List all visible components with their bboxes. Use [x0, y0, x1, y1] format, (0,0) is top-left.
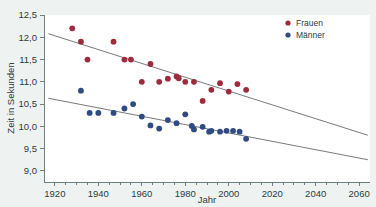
- data-point: [182, 79, 188, 85]
- y-tick-label: 10,0: [19, 121, 38, 132]
- data-point: [165, 117, 171, 123]
- y-tick-label: 11,0: [19, 76, 37, 87]
- data-point: [148, 123, 154, 129]
- data-point: [217, 129, 223, 135]
- data-point: [176, 75, 182, 81]
- data-point: [243, 136, 249, 142]
- data-point: [130, 101, 136, 107]
- legend-label-männer: Männer: [296, 30, 325, 40]
- x-tick-label: 2060: [349, 188, 370, 199]
- x-tick-label: 2040: [305, 188, 326, 199]
- plot-area: [44, 15, 370, 182]
- data-point: [191, 79, 197, 85]
- data-point: [148, 61, 154, 67]
- x-tick-label: 1940: [88, 188, 109, 199]
- data-point: [200, 98, 206, 104]
- y-tick-label: 12,5: [19, 9, 38, 20]
- data-point: [174, 120, 180, 126]
- data-point: [243, 87, 249, 93]
- data-point: [85, 57, 91, 63]
- data-point: [139, 114, 145, 120]
- data-point: [122, 57, 128, 63]
- y-tick-label: 9,0: [24, 165, 37, 176]
- y-tick-label: 10,5: [19, 98, 38, 109]
- data-point: [226, 89, 232, 95]
- legend-marker-männer: [285, 32, 290, 37]
- data-point: [156, 79, 162, 85]
- x-tick-label: 1920: [44, 188, 65, 199]
- data-point: [224, 128, 230, 134]
- data-point: [78, 88, 84, 94]
- data-point: [128, 57, 134, 63]
- data-point: [165, 76, 171, 82]
- data-point: [182, 111, 188, 117]
- y-axis-ticks: 9,09,510,010,511,011,512,012,5: [19, 9, 45, 176]
- chart-screenshot: 9,09,510,010,511,011,512,012,5 192019401…: [0, 0, 376, 207]
- x-tick-label: 2020: [262, 188, 283, 199]
- data-point: [237, 129, 243, 135]
- y-tick-label: 12,0: [19, 32, 38, 43]
- y-tick-label: 11,5: [19, 54, 37, 65]
- data-point: [111, 39, 117, 45]
- y-tick-label: 9,5: [24, 143, 37, 154]
- data-point: [139, 79, 145, 85]
- x-axis-title: Jahr: [198, 194, 216, 205]
- data-point: [235, 81, 241, 87]
- data-point: [230, 128, 236, 134]
- y-axis-title: Zeit in Sekunden: [5, 62, 16, 133]
- legend-label-frauen: Frauen: [296, 18, 323, 28]
- data-point: [111, 110, 117, 116]
- data-point: [95, 110, 101, 116]
- scatter-chart: 9,09,510,010,511,011,512,012,5 192019401…: [0, 0, 376, 207]
- data-point: [122, 106, 128, 112]
- data-point: [208, 128, 214, 134]
- x-tick-label: 2000: [218, 188, 239, 199]
- x-tick-label: 1980: [175, 188, 196, 199]
- x-tick-label: 1960: [131, 188, 152, 199]
- data-point: [191, 127, 197, 133]
- legend-marker-frauen: [285, 20, 290, 25]
- data-point: [78, 39, 84, 45]
- data-point: [87, 110, 93, 116]
- data-point: [69, 25, 75, 31]
- data-point: [208, 87, 214, 93]
- data-point: [217, 80, 223, 86]
- data-point: [156, 126, 162, 132]
- data-point: [200, 124, 206, 130]
